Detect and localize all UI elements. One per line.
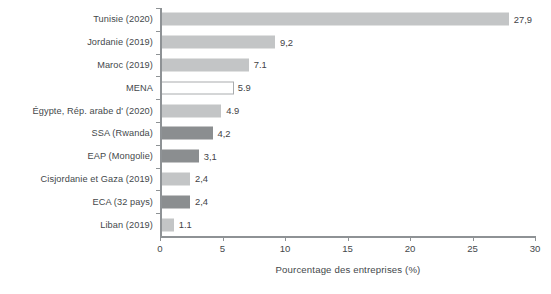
- y-axis-line: [160, 8, 162, 237]
- x-axis-tick-label: 5: [220, 243, 225, 254]
- plot-area: Tunisie (2020)27,9Jordanie (2019)9,2Maro…: [160, 8, 535, 236]
- bar-row: ECA (32 pays)2,4: [160, 190, 535, 213]
- bar: 4,2: [160, 127, 213, 140]
- bar-row: SSA (Rwanda)4,2: [160, 122, 535, 145]
- category-label: ECA (32 pays): [92, 197, 153, 207]
- category-label: SSA (Rwanda): [92, 128, 153, 138]
- bar: 9,2: [160, 36, 275, 49]
- bar-value-label: 3,1: [204, 151, 217, 162]
- x-axis-tick: [160, 236, 161, 241]
- bar-value-label: 2,4: [195, 196, 208, 207]
- category-label: Égypte, Rép. arabe d' (2020): [33, 106, 154, 116]
- bar-row: Maroc (2019)7.1: [160, 54, 535, 77]
- bar-value-label: 9,2: [280, 37, 293, 48]
- category-label: Jordanie (2019): [87, 37, 153, 47]
- bar-rows: Tunisie (2020)27,9Jordanie (2019)9,2Maro…: [160, 8, 535, 236]
- bar-value-label: 2,4: [195, 173, 208, 184]
- bar-value-label: 1.1: [179, 219, 192, 230]
- bar-value-label: 4.9: [226, 105, 239, 116]
- bar: 27,9: [160, 13, 509, 26]
- x-axis-tick-label: 10: [280, 243, 291, 254]
- category-label: MENA: [126, 83, 153, 93]
- bar-row: Tunisie (2020)27,9: [160, 8, 535, 31]
- bar-value-label: 5.9: [238, 82, 251, 93]
- bar: 3,1: [160, 150, 199, 163]
- bar-value-label: 4,2: [218, 128, 231, 139]
- bar: 1.1: [160, 218, 174, 231]
- bar-chart: Tunisie (2020)27,9Jordanie (2019)9,2Maro…: [0, 0, 551, 294]
- bar: 7.1: [160, 58, 249, 71]
- bar-row: MENA5.9: [160, 76, 535, 99]
- category-label: Maroc (2019): [97, 60, 153, 70]
- bar-row: Jordanie (2019)9,2: [160, 31, 535, 54]
- bar-row: Cisjordanie et Gaza (2019)2,4: [160, 168, 535, 191]
- x-axis-tick-label: 0: [157, 243, 162, 254]
- category-label: Cisjordanie et Gaza (2019): [41, 174, 153, 184]
- bar: 5.9: [160, 81, 234, 94]
- bar: 2,4: [160, 195, 190, 208]
- x-axis-tick-label: 25: [467, 243, 478, 254]
- x-axis-title: Pourcentage des entreprises (%): [160, 264, 536, 275]
- x-axis-tick: [223, 236, 224, 241]
- x-axis-tick-label: 20: [405, 243, 416, 254]
- category-label: EAP (Mongolie): [87, 151, 153, 161]
- x-axis-tick: [348, 236, 349, 241]
- category-label: Liban (2019): [100, 220, 153, 230]
- x-axis-tick-label: 30: [530, 243, 541, 254]
- x-axis-tick-label: 15: [342, 243, 353, 254]
- bar-row: Liban (2019)1.1: [160, 213, 535, 236]
- x-axis-tick: [285, 236, 286, 241]
- bar: 4.9: [160, 104, 221, 117]
- bar-row: EAP (Mongolie)3,1: [160, 145, 535, 168]
- category-label: Tunisie (2020): [93, 14, 153, 24]
- bar: 2,4: [160, 172, 190, 185]
- x-axis-tick: [535, 236, 536, 241]
- x-axis-tick: [473, 236, 474, 241]
- bar-row: Égypte, Rép. arabe d' (2020)4.9: [160, 99, 535, 122]
- bar-value-label: 7.1: [254, 59, 267, 70]
- x-axis-tick: [410, 236, 411, 241]
- bar-value-label: 27,9: [514, 14, 532, 25]
